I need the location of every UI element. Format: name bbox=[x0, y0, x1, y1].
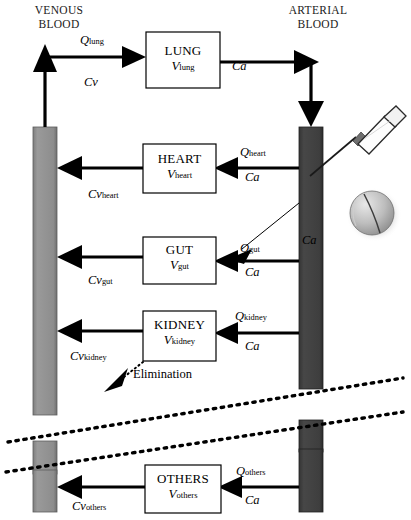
conc-label-cv-gut: Cvgut bbox=[88, 274, 113, 287]
flow-label-q-heart: Qheart bbox=[240, 146, 266, 159]
pbpk-diagram-canvas: VENOUS BLOOD ARTERIAL BLOOD LUNG Vlung H… bbox=[0, 0, 411, 520]
box-kidney bbox=[143, 311, 216, 361]
arterial-blood-column bbox=[299, 127, 323, 512]
syringe-icon bbox=[310, 106, 406, 176]
diagram-svg bbox=[0, 0, 411, 520]
flow-label-q-gut: Qgut bbox=[240, 242, 260, 255]
axis-break-icon bbox=[6, 378, 403, 472]
venous-blood-column bbox=[33, 127, 57, 512]
flow-label-q-kidney: Qkidney bbox=[235, 310, 267, 323]
conc-label-ca-others: Ca bbox=[245, 494, 260, 507]
conc-label-ca-gut: Ca bbox=[245, 266, 260, 279]
flow-label-q-lung: Qlung bbox=[80, 34, 104, 47]
conc-label-cv-others: Cvothers bbox=[72, 500, 106, 513]
box-heart bbox=[143, 144, 216, 193]
pill-icon bbox=[346, 188, 402, 242]
flow-label-q-others: Qothers bbox=[236, 465, 266, 478]
conc-label-cv-kidney: Cvkidney bbox=[70, 350, 107, 363]
conc-label-cv: Cv bbox=[84, 76, 98, 89]
box-gut bbox=[143, 237, 216, 284]
conc-label-cv-heart: Cvheart bbox=[88, 188, 119, 201]
elimination-label: Elimination bbox=[133, 368, 192, 381]
box-lung bbox=[146, 32, 220, 88]
conc-label-ca-heart: Ca bbox=[245, 171, 260, 184]
compartment-boxes bbox=[143, 32, 221, 513]
arterial-blood-header: ARTERIAL BLOOD bbox=[258, 4, 378, 31]
conc-label-ca-kidney: Ca bbox=[245, 340, 260, 353]
venous-blood-header: VENOUS BLOOD bbox=[6, 4, 112, 31]
conc-label-ca-lung: Ca bbox=[232, 60, 247, 73]
conc-label-ca-column: Ca bbox=[302, 233, 317, 248]
box-others bbox=[145, 465, 221, 513]
